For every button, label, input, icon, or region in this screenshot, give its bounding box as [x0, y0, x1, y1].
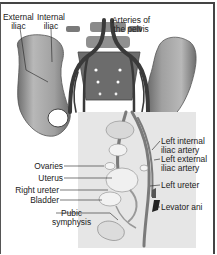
label-bladder: Bladder	[30, 196, 59, 205]
label-internal-iliac: Internal iliac	[37, 13, 65, 31]
label-line: the pelvis	[112, 25, 150, 34]
label-uterus: Uterus	[38, 174, 63, 183]
label-levator-ani: Levator ani	[161, 203, 202, 212]
label-external-iliac: External iliac	[3, 13, 34, 31]
pelvis-illustration	[0, 0, 217, 255]
label-line: symphysis	[52, 218, 91, 227]
bladder-shape	[99, 192, 121, 206]
uterus-shape	[109, 144, 127, 156]
label-left-external-iliac-artery: Left external iliac artery	[161, 155, 207, 173]
right-iliac-bone	[147, 37, 196, 120]
label-line: iliac	[3, 22, 34, 31]
label-arteries-of-pelvis: Arteries of the pelvis	[112, 16, 150, 34]
label-line: iliac	[37, 22, 65, 31]
ovary-shape	[105, 163, 115, 170]
label-left-internal-iliac-artery: Left internal iliac artery	[161, 137, 205, 155]
label-ovaries: Ovaries	[34, 162, 63, 171]
label-line: iliac artery	[161, 164, 207, 173]
label-left-ureter: Left ureter	[161, 181, 199, 190]
label-pubic-symphysis: Pubic symphysis	[52, 209, 91, 227]
label-right-ureter: Right ureter	[15, 186, 59, 195]
left-iliac-bone	[17, 35, 70, 136]
